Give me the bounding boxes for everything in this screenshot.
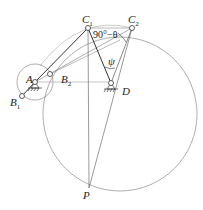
label-a: A — [26, 74, 33, 85]
label-b1: B1 — [10, 97, 20, 111]
joint-b2 — [48, 72, 53, 77]
arc-c1-c2 — [40, 25, 132, 66]
label-c1: C1 — [82, 14, 93, 28]
joint-b1 — [20, 94, 25, 99]
linkage-diagram: A B1 B2 C1 C2 D P 90°−θ ψ — [0, 0, 203, 210]
joint-d — [109, 81, 114, 86]
label-angle-90-theta: 90°−θ — [93, 30, 117, 40]
label-c2: C2 — [128, 14, 139, 28]
joint-a — [33, 80, 38, 85]
label-p: P — [83, 190, 90, 201]
label-b2: B2 — [61, 74, 71, 88]
label-d: D — [122, 86, 130, 97]
angle-arc-psi — [105, 67, 115, 69]
label-psi: ψ — [108, 56, 115, 67]
